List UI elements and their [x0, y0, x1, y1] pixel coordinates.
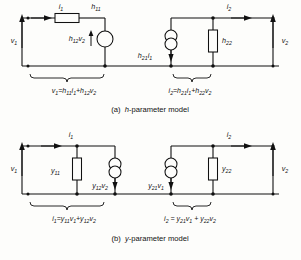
y-i2-label: i2	[227, 130, 232, 140]
h-left-node-dot	[103, 64, 107, 68]
y-left-equation: i1=y11v1+y12v2	[52, 215, 96, 224]
figure-canvas: i1 h11 v1 h12v2 h21i1 h22 i2 v2 v1=h11i1…	[0, 0, 301, 260]
y-y11-bottom-node-dot	[75, 192, 79, 196]
h12v2-label: h12v2	[69, 34, 85, 44]
y-right-equation: i2 = y21v1 + y22v2	[164, 215, 216, 224]
y12v2-label: y12v2	[91, 181, 108, 191]
y22-resistor	[209, 158, 218, 180]
y21v1-current-source-lower	[165, 166, 177, 178]
h22-resistor	[209, 30, 218, 52]
h-left-brace	[30, 74, 104, 82]
y21v1-label: y21v1	[147, 181, 164, 191]
h-i1-label: i1	[59, 2, 64, 12]
circuit-diagram-svg: i1 h11 v1 h12v2 h21i1 h22 i2 v2 v1=h11i1…	[0, 0, 301, 260]
h22-label: h22	[222, 36, 232, 46]
y12v2-current-source-lower	[109, 166, 121, 178]
h-input-terminal-dot	[27, 17, 30, 20]
panel-h-parameter: i1 h11 v1 h12v2 h21i1 h22 i2 v2 v1=h11i1…	[11, 2, 289, 114]
y11-resistor	[73, 158, 82, 180]
h11-label: h11	[91, 2, 100, 12]
h21i1-label: h21i1	[138, 51, 152, 61]
y-left-brace	[30, 202, 104, 210]
panel-y-parameter: i1 v1 y11 y12v2 y21v1 y22 i2 v2 i1=y11v1…	[11, 130, 289, 243]
y-v1-label: v1	[11, 164, 18, 174]
y-input-bottom-terminal-dot	[27, 193, 30, 196]
h-v1-label: v1	[11, 36, 18, 46]
y11-label: y11	[50, 166, 60, 176]
h12v2-voltage-source	[97, 31, 113, 47]
h-panel-caption: (a) h-parameter model	[111, 105, 189, 114]
y-y12-bottom-node-dot	[113, 192, 117, 196]
y-input-terminal-dot	[27, 145, 30, 148]
y22-label: y22	[221, 164, 231, 174]
y-panel-caption: (b) y-parameter model	[111, 234, 189, 243]
h-left-equation: v1=h11i1+h12v2	[52, 87, 96, 96]
y-i1-label: i1	[69, 130, 74, 140]
y-v2-label: v2	[282, 164, 289, 174]
h21i1-current-source-lower	[165, 38, 177, 50]
h-i2-label: i2	[227, 2, 232, 12]
h-v2-label: v2	[282, 36, 289, 46]
h11-resistor	[55, 14, 79, 23]
h-input-bottom-terminal-dot	[27, 65, 30, 68]
h-right-equation: i2=h21i1+h22v2	[169, 87, 212, 96]
h-right-brace	[173, 74, 211, 82]
y-right-brace	[173, 202, 211, 210]
